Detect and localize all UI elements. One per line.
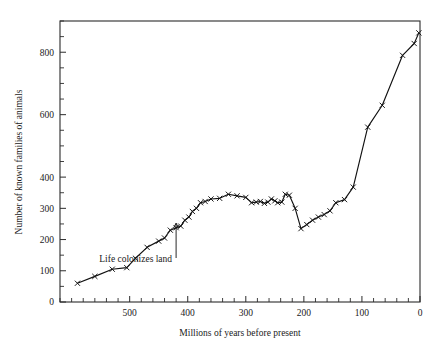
x-tick-label: 200 bbox=[297, 308, 312, 318]
y-tick-label: 300 bbox=[40, 204, 55, 214]
data-point-marker-x bbox=[342, 197, 347, 202]
x-tick-label: 100 bbox=[355, 308, 370, 318]
data-point-marker-x bbox=[186, 214, 191, 219]
data-point-marker-x bbox=[144, 245, 149, 250]
y-tick-label: 0 bbox=[49, 297, 54, 307]
data-point-marker-x bbox=[156, 239, 161, 244]
data-point-marker-x bbox=[400, 53, 405, 58]
annotation-label: Life colonizes land bbox=[99, 254, 172, 264]
data-point-marker-x bbox=[327, 208, 332, 213]
x-tick-label: 400 bbox=[181, 308, 196, 318]
y-axis-tick-labels: 0100200300400600800 bbox=[40, 48, 55, 308]
y-axis-title: Number of known families of animals bbox=[14, 89, 24, 234]
data-point-marker-x bbox=[316, 214, 321, 219]
data-point-marker-x bbox=[194, 206, 199, 211]
data-point-marker-x bbox=[333, 200, 338, 205]
x-tick-label: 300 bbox=[239, 308, 254, 318]
y-tick-label: 400 bbox=[40, 173, 55, 183]
data-point-marker-x bbox=[304, 222, 309, 227]
data-point-marker-x bbox=[380, 103, 385, 108]
data-point-marker-x bbox=[162, 235, 167, 240]
data-line-known-families bbox=[77, 33, 418, 283]
x-axis-title: Millions of years before present bbox=[179, 328, 301, 338]
data-point-marker-x bbox=[310, 218, 315, 223]
data-point-marker-x bbox=[412, 41, 417, 46]
y-axis-ticks bbox=[60, 21, 66, 302]
data-point-marker-x bbox=[416, 30, 421, 35]
x-axis-tick-labels: 5004003002001000 bbox=[123, 308, 423, 318]
data-markers bbox=[75, 30, 422, 286]
y-tick-label: 100 bbox=[40, 266, 55, 276]
data-point-marker-x bbox=[168, 228, 173, 233]
data-point-marker-x bbox=[182, 218, 187, 223]
animal-families-line-chart: 0100200300400600800 5004003002001000 Lif… bbox=[0, 0, 446, 345]
data-point-marker-x bbox=[190, 209, 195, 214]
data-point-marker-x bbox=[322, 212, 327, 217]
x-axis-ticks bbox=[60, 296, 420, 302]
x-tick-label: 0 bbox=[418, 308, 423, 318]
data-point-marker-x bbox=[92, 274, 97, 279]
y-tick-label: 800 bbox=[40, 48, 55, 58]
annotation-life-colonizes-land: Life colonizes land bbox=[99, 223, 178, 264]
data-point-marker-x bbox=[75, 281, 80, 286]
y-tick-label: 200 bbox=[40, 235, 55, 245]
y-tick-label: 600 bbox=[40, 110, 55, 120]
figure-container: 0100200300400600800 5004003002001000 Lif… bbox=[0, 0, 446, 345]
x-tick-label: 500 bbox=[123, 308, 138, 318]
